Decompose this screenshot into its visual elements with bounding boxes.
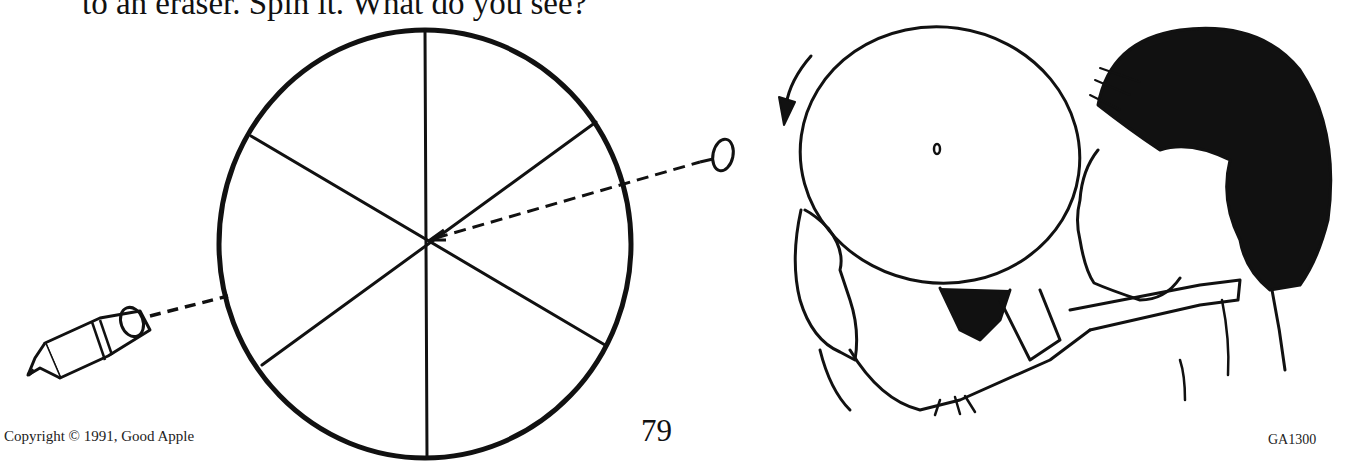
copyright-notice: Copyright © 1991, Good Apple — [4, 428, 194, 445]
product-code: GA1300 — [1268, 432, 1316, 448]
pencil-with-eraser — [28, 296, 228, 378]
illustration-canvas — [0, 0, 1358, 461]
color-wheel-disk — [219, 30, 631, 458]
child-spinning-disk — [779, 9, 1331, 415]
thumbtack — [430, 137, 736, 240]
page-number: 79 — [641, 413, 672, 449]
